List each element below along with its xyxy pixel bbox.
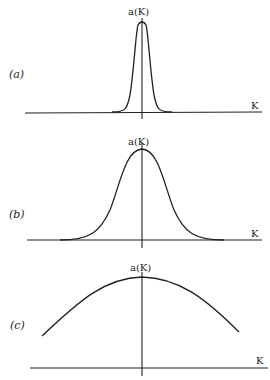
panel-c-k-label: K — [256, 356, 263, 366]
panel-b-label: (b) — [9, 209, 25, 220]
panel-c-function-label: a(K) — [130, 263, 151, 273]
panel-a-k-axis — [25, 112, 262, 113]
panel-b-k-label: K — [251, 229, 258, 239]
panel-b-function-label: a(K) — [128, 137, 149, 147]
panel-c-label: (c) — [10, 320, 25, 331]
panel-a-k-label: K — [251, 101, 258, 111]
panel-a-function-label: a(K) — [128, 7, 149, 17]
panel-c-curve — [42, 277, 239, 336]
figure-canvas — [0, 0, 270, 380]
panel-a-label: (a) — [9, 69, 24, 80]
